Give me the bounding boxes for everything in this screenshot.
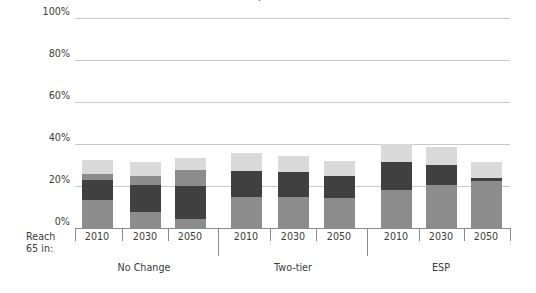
gridline-40 xyxy=(75,144,510,145)
x-axis-line xyxy=(75,228,510,229)
group-separator xyxy=(218,228,219,256)
axis-end-tick xyxy=(75,228,76,241)
bar-segment-top-light xyxy=(130,162,161,176)
bar-segment-dark xyxy=(426,165,457,185)
bar-segment-dark xyxy=(231,171,262,196)
x-tick-label-esp-2050: 2050 xyxy=(463,231,509,242)
bar-esp-2030 xyxy=(426,147,457,228)
bar-segment-dark xyxy=(381,162,412,190)
x-axis-minor-tick xyxy=(419,228,420,241)
group-label-two-tier: Two-tier xyxy=(218,262,368,273)
bar-segment-bottom-medium xyxy=(278,197,309,229)
bar-esp-2010 xyxy=(381,144,412,228)
reach-label-line2: 65 in: xyxy=(26,243,53,254)
bar-segment-dark xyxy=(324,176,355,198)
bar-segment-top-light xyxy=(82,160,113,175)
bar-segment-dark xyxy=(278,172,309,196)
bar-segment-top-light xyxy=(231,153,262,171)
x-axis-minor-tick xyxy=(270,228,271,241)
y-tick-label: 100% xyxy=(26,6,70,17)
x-tick-label-no-change-2050: 2050 xyxy=(167,231,213,242)
gridline-80 xyxy=(75,60,510,61)
y-tick-label: 20% xyxy=(26,174,70,185)
y-tick-label: 40% xyxy=(26,132,70,143)
bar-esp-2050 xyxy=(471,162,502,228)
x-axis-minor-tick xyxy=(122,228,123,241)
bar-segment-upper-medium xyxy=(175,170,206,186)
bar-segment-dark xyxy=(82,180,113,200)
bar-segment-bottom-medium xyxy=(426,185,457,228)
gridline-100 xyxy=(75,18,510,19)
bar-segment-bottom-medium xyxy=(381,190,412,228)
x-tick-label-two-tier-2050: 2050 xyxy=(316,231,362,242)
bar-segment-top-light xyxy=(381,144,412,162)
y-tick-label: 80% xyxy=(26,48,70,59)
bar-segment-bottom-medium xyxy=(82,200,113,228)
x-axis-minor-tick xyxy=(168,228,169,241)
reach-label-line1: Reach xyxy=(26,231,55,242)
x-axis-minor-tick xyxy=(316,228,317,241)
bar-segment-upper-medium xyxy=(130,176,161,185)
gridline-60 xyxy=(75,102,510,103)
group-separator xyxy=(367,228,368,256)
y-tick-label: 60% xyxy=(26,90,70,101)
y-axis-tick-labels: 0%20%40%60%80%100% xyxy=(26,18,70,228)
group-label-no-change: No Change xyxy=(69,262,219,273)
x-tick-label-esp-2030: 2030 xyxy=(418,231,464,242)
bar-segment-top-light xyxy=(324,161,355,176)
x-tick-label-two-tier-2010: 2010 xyxy=(223,231,269,242)
bar-segment-bottom-medium xyxy=(175,219,206,228)
x-tick-label-no-change-2030: 2030 xyxy=(122,231,168,242)
bar-segment-dark xyxy=(175,186,206,219)
pension-income-chart: g Pension income as percentage of median… xyxy=(0,0,536,293)
bar-segment-top-light xyxy=(278,156,309,173)
reach-65-label: Reach 65 in: xyxy=(26,231,74,255)
y-tick-label: 0% xyxy=(26,216,70,227)
bar-segment-dark xyxy=(130,185,161,212)
bar-segment-bottom-medium xyxy=(231,197,262,229)
bar-no-change-2030 xyxy=(130,162,161,228)
x-tick-label-no-change-2010: 2010 xyxy=(74,231,120,242)
bar-two-tier-2050 xyxy=(324,161,355,228)
x-tick-label-two-tier-2030: 2030 xyxy=(270,231,316,242)
bar-no-change-2010 xyxy=(82,160,113,228)
bar-segment-top-light xyxy=(426,147,457,165)
bar-segment-top-light xyxy=(175,158,206,171)
cut-off-title: g xyxy=(255,0,283,1)
bar-no-change-2050 xyxy=(175,158,206,228)
plot-area xyxy=(75,18,510,228)
group-label-esp: ESP xyxy=(366,262,516,273)
bar-two-tier-2010 xyxy=(231,153,262,228)
x-axis-minor-tick xyxy=(464,228,465,241)
axis-end-tick xyxy=(510,228,511,241)
bar-segment-top-light xyxy=(471,162,502,178)
bar-two-tier-2030 xyxy=(278,156,309,228)
bar-segment-bottom-medium xyxy=(471,181,502,228)
bar-segment-bottom-medium xyxy=(324,198,355,228)
bar-segment-bottom-medium xyxy=(130,212,161,228)
x-tick-label-esp-2010: 2010 xyxy=(373,231,419,242)
